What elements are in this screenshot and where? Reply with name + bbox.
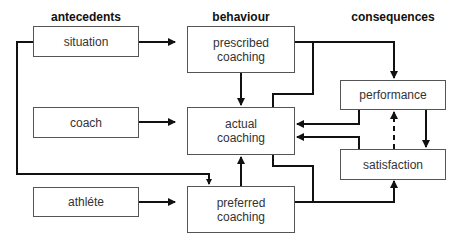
box-satisfaction: satisfaction <box>340 149 446 180</box>
box-performance-label: performance <box>359 88 426 102</box>
box-actual-coaching: actual coaching <box>187 107 295 155</box>
box-performance: performance <box>340 80 446 110</box>
arrow-satisfaction-to-actual <box>297 137 359 149</box>
box-athlete-label: athléte <box>68 195 104 209</box>
box-situation-label: situation <box>64 35 109 49</box>
heading-behaviour: behaviour <box>187 10 295 24</box>
arrow-preferred-to-satisfaction <box>295 181 394 202</box>
box-situation: situation <box>33 26 139 57</box>
box-preferred-coaching-label: preferred coaching <box>217 196 266 224</box>
box-coach-label: coach <box>70 116 102 130</box>
arrow-prescribed-to-performance <box>295 42 394 78</box>
box-satisfaction-label: satisfaction <box>363 158 423 172</box>
box-coach: coach <box>33 107 139 138</box>
box-athlete: athléte <box>33 187 139 217</box>
arrow-performance-to-actual <box>297 110 359 124</box>
box-prescribed-coaching: prescribed coaching <box>187 26 295 73</box>
box-prescribed-coaching-label: prescribed coaching <box>213 36 269 64</box>
heading-consequences: consequences <box>340 10 446 24</box>
box-preferred-coaching: preferred coaching <box>187 186 295 233</box>
heading-antecedents: antecedents <box>33 10 139 24</box>
box-actual-coaching-label: actual coaching <box>217 117 265 145</box>
